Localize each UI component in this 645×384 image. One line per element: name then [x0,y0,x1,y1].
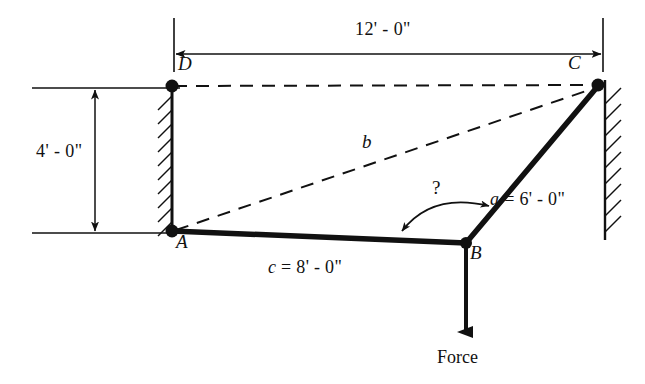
dashed-line-DC [174,85,596,86]
node-marker-C [592,79,605,92]
unknown-angle-label: ? [432,178,440,197]
node-label-D: D [178,54,192,73]
diagonal-label-b: b [362,132,372,151]
right-support-wall [605,80,621,240]
member-c-variable: c [268,257,276,277]
member-a-variable: a [490,189,499,209]
member-label-a: a = 6' - 0" [490,190,565,208]
member-AB [172,231,466,243]
force-label: Force [437,348,478,366]
member-c-value: = 8' - 0" [281,257,342,277]
left-support-wall [158,84,172,236]
vertical-dimension-label: 4' - 0" [36,142,82,160]
member-label-c: c = 8' - 0" [268,258,342,276]
horizontal-dimension-label: 12' - 0" [355,20,411,38]
angle-arc-path [402,202,489,231]
left-wall-hatching [158,96,172,236]
member-a-value: = 6' - 0" [504,189,565,209]
frame-diagram: 12' - 0" 4' - 0" D A B C b a = 6' - 0" c… [0,0,645,384]
node-label-C: C [568,53,581,72]
angle-arc-at-B [402,202,489,231]
right-wall-hatching [605,88,621,232]
node-marker-D [166,80,179,93]
joint-markers [166,79,605,250]
node-label-A: A [176,232,188,251]
node-label-B: B [470,243,482,262]
